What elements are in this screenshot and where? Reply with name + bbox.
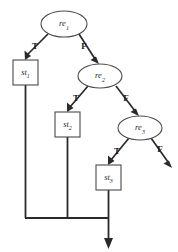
edge-re1-to-st1: T	[25, 34, 49, 60]
edge-re3-to-st3: T	[108, 138, 129, 165]
edge-label-true: T	[32, 41, 38, 51]
arrow-head	[164, 161, 173, 169]
node-st2[interactable]: st2	[55, 112, 80, 137]
flow-diagram: T F T F T F	[0, 0, 178, 252]
node-re1[interactable]: re1	[41, 11, 87, 37]
edge-label-true: T	[73, 93, 79, 103]
edge-label-true: T	[114, 146, 120, 156]
edge-re2-to-re3: F	[116, 86, 139, 116]
node-re2[interactable]: re2	[78, 64, 122, 88]
edge-label-false: F	[157, 144, 163, 154]
node-st3[interactable]: st3	[96, 165, 121, 190]
edge-label-false: F	[123, 93, 129, 103]
edge-label-false: F	[81, 41, 87, 51]
arrow-head	[91, 57, 100, 65]
diagram-canvas: T F T F T F	[0, 0, 178, 252]
node-re3[interactable]: re3	[118, 116, 162, 140]
arrow-head	[131, 109, 140, 117]
edge-re2-to-st2: T	[67, 86, 88, 112]
exit-arrow-head	[104, 238, 113, 249]
node-st1[interactable]: st1	[13, 60, 38, 85]
edge-re3-to-exit: F	[151, 138, 172, 168]
edge-re1-to-re2: F	[79, 34, 99, 64]
